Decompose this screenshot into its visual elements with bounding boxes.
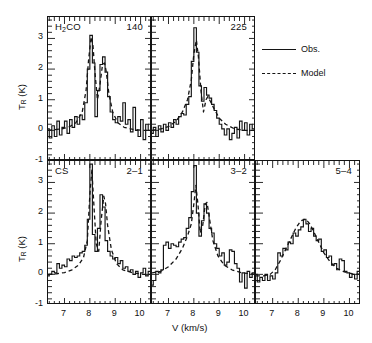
legend-label-model: Model (301, 68, 326, 78)
observed-spectrum (48, 164, 151, 277)
spectrum-panel-cs-2-1: CS2–1 (47, 160, 151, 304)
legend-row-obs: Obs. (262, 44, 320, 54)
spectrum-panel-cs-3-2: 3–2 (151, 160, 255, 304)
y-tick-label: 2 (23, 62, 43, 72)
panel-transition-label: 2–1 (127, 165, 143, 176)
legend: Obs. Model (262, 44, 370, 90)
spectra-figure: TR (K) TR (K) V (km/s) H2CO140225CS2–13–… (0, 0, 372, 343)
x-tick-label: 10 (132, 308, 148, 318)
panel-species-label: H2CO (55, 21, 81, 34)
x-tick-label: 9 (106, 308, 122, 318)
legend-dashed-line-icon (262, 73, 296, 74)
y-tick-label: -1 (23, 298, 43, 308)
x-tick-label: 7 (55, 308, 71, 318)
y-tick-label: 2 (23, 206, 43, 216)
axis-ticks (256, 161, 360, 304)
model-curve (152, 186, 255, 275)
panel-transition-label: 140 (127, 21, 143, 32)
observed-spectrum (48, 35, 151, 139)
legend-label-obs: Obs. (301, 44, 320, 54)
x-tick-label: 8 (289, 308, 305, 318)
spectrum-panel-h2co-140: H2CO140 (47, 16, 151, 160)
panel-species-label: CS (55, 165, 69, 176)
x-tick-label: 9 (315, 308, 331, 318)
x-tick-label: 9 (210, 308, 226, 318)
y-tick-label: 1 (23, 237, 43, 247)
legend-solid-line-icon (262, 49, 296, 50)
x-tick-label: 7 (264, 308, 280, 318)
x-tick-label: 10 (236, 308, 252, 318)
panel-transition-label: 5–4 (336, 165, 352, 176)
panel-transition-label: 3–2 (231, 165, 247, 176)
x-tick-label: 7 (159, 308, 175, 318)
spectrum-panel-h2co-225: 225 (151, 16, 255, 160)
y-tick-label: -1 (23, 154, 43, 164)
model-curve (152, 40, 255, 130)
y-tick-label: 1 (23, 93, 43, 103)
legend-row-model: Model (262, 68, 326, 78)
y-tick-label: 3 (23, 175, 43, 185)
spectrum-panel-cs-5-4: 5–4 (255, 160, 360, 304)
y-tick-label: 0 (23, 123, 43, 133)
x-tick-label: 8 (185, 308, 201, 318)
observed-spectrum (152, 166, 255, 289)
x-tick-label: 10 (340, 308, 356, 318)
y-tick-label: 3 (23, 31, 43, 41)
panel-transition-label: 225 (231, 21, 247, 32)
x-axis-title: V (km/s) (172, 322, 207, 333)
observed-spectrum (152, 28, 255, 140)
axis-ticks (48, 161, 151, 304)
x-tick-label: 8 (81, 308, 97, 318)
y-tick-label: 0 (23, 267, 43, 277)
